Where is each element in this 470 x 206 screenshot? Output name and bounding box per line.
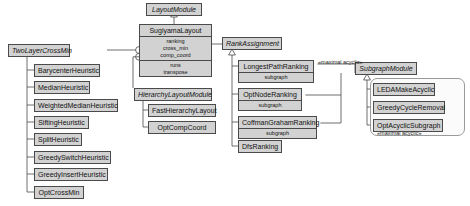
class-median-heuristic[interactable]: MedianHeuristic bbox=[34, 81, 90, 94]
class-name-greedy-insert-heuristic: GreedyInsertHeuristic bbox=[35, 169, 107, 180]
attributes-longest-path-ranking: subgraph bbox=[239, 72, 313, 82]
class-name-split-heuristic: SplitHeuristic bbox=[35, 134, 81, 145]
class-greedy-cycle-removal[interactable]: GreedyCycleRemoval bbox=[373, 101, 445, 114]
class-weighted-median-heuristic[interactable]: WeightedMedianHeuristic bbox=[34, 99, 118, 112]
class-name-greedy-cycle-removal: GreedyCycleRemoval bbox=[374, 102, 444, 113]
class-name-sugiyama-layout: SugiyamaLayout bbox=[140, 25, 211, 36]
class-opt-cross-min[interactable]: OptCrossMin bbox=[34, 186, 84, 199]
class-name-weighted-median-heuristic: WeightedMedianHeuristic bbox=[35, 100, 117, 111]
attributes-sugiyama-layout-1: ranking cross_min comp_coord bbox=[140, 36, 211, 60]
attributes-sugiyama-layout-2: runs transpose bbox=[140, 60, 211, 77]
attribute: comp_coord bbox=[143, 52, 208, 59]
attributes-coffman-graham-ranking: subgraph bbox=[239, 128, 316, 138]
class-name-dfs-ranking: DfsRanking bbox=[239, 141, 281, 152]
class-sugiyama-layout[interactable]: SugiyamaLayout ranking cross_min comp_co… bbox=[139, 24, 212, 77]
class-barycenter-heuristic[interactable]: BarycenterHeuristic bbox=[34, 64, 100, 77]
edge-coffman-to-subgraphmodule bbox=[320, 95, 341, 123]
class-sifting-heuristic[interactable]: SiftingHeuristic bbox=[34, 116, 89, 129]
attribute: subgraph bbox=[242, 130, 313, 137]
class-greedy-switch-heuristic[interactable]: GreedySwitchHeuristic bbox=[34, 151, 111, 164]
class-leda-make-acyclic[interactable]: LEDAMakeAcyclic bbox=[373, 83, 435, 96]
attribute: cross_min bbox=[143, 45, 208, 52]
class-longest-path-ranking[interactable]: LongestPathRanking subgraph bbox=[238, 60, 314, 83]
class-name-fast-hierarchy-layout: FastHierarchyLayout bbox=[149, 105, 215, 116]
attribute: runs bbox=[143, 62, 208, 69]
class-name-opt-node-ranking: OptNodeRanking bbox=[239, 89, 301, 100]
class-greedy-insert-heuristic[interactable]: GreedyInsertHeuristic bbox=[34, 168, 108, 181]
uml-class-diagram: LayoutModule SugiyamaLayout ranking cros… bbox=[0, 0, 470, 206]
class-dfs-ranking[interactable]: DfsRanking bbox=[238, 140, 282, 153]
class-name-sifting-heuristic: SiftingHeuristic bbox=[35, 117, 88, 128]
class-name-longest-path-ranking: LongestPathRanking bbox=[239, 61, 313, 72]
stereotype-maximal-acyclic-group: «maximal acyclic» bbox=[377, 131, 422, 137]
attribute: ranking bbox=[143, 38, 208, 45]
attributes-opt-node-ranking: subgraph bbox=[239, 100, 301, 110]
attribute: subgraph bbox=[242, 102, 298, 109]
class-split-heuristic[interactable]: SplitHeuristic bbox=[34, 133, 82, 146]
class-name-rank-assignment: RankAssignment bbox=[223, 38, 281, 49]
class-opt-comp-coord[interactable]: OptCompCoord bbox=[148, 121, 216, 134]
class-hierarchy-layout-module[interactable]: HierarchyLayoutModule bbox=[134, 88, 212, 101]
class-name-subgraph-module: SubgraphModule bbox=[356, 63, 416, 74]
attribute: transpose bbox=[143, 69, 208, 76]
class-name-median-heuristic: MedianHeuristic bbox=[35, 82, 89, 93]
attribute: subgraph bbox=[242, 74, 310, 81]
stereotype-maximal-acyclic-edge: «maximal acyclic» bbox=[318, 60, 363, 66]
class-name-opt-comp-coord: OptCompCoord bbox=[149, 122, 215, 133]
class-coffman-graham-ranking[interactable]: CoffmanGrahamRanking subgraph bbox=[238, 116, 317, 139]
class-layout-module[interactable]: LayoutModule bbox=[146, 3, 202, 16]
class-name-layout-module: LayoutModule bbox=[147, 4, 201, 15]
class-name-leda-make-acyclic: LEDAMakeAcyclic bbox=[374, 84, 434, 95]
class-opt-node-ranking[interactable]: OptNodeRanking subgraph bbox=[238, 88, 302, 111]
class-two-layer-cross-min[interactable]: TwoLayerCrossMin bbox=[8, 44, 70, 57]
class-name-coffman-graham-ranking: CoffmanGrahamRanking bbox=[239, 117, 316, 128]
class-name-greedy-switch-heuristic: GreedySwitchHeuristic bbox=[35, 152, 110, 163]
class-rank-assignment[interactable]: RankAssignment bbox=[222, 37, 282, 50]
class-subgraph-module[interactable]: SubgraphModule bbox=[355, 62, 417, 75]
class-name-two-layer-cross-min: TwoLayerCrossMin bbox=[9, 45, 69, 56]
class-name-hierarchy-layout-module: HierarchyLayoutModule bbox=[135, 89, 211, 100]
class-name-barycenter-heuristic: BarycenterHeuristic bbox=[35, 65, 99, 76]
class-name-opt-cross-min: OptCrossMin bbox=[35, 187, 83, 198]
class-fast-hierarchy-layout[interactable]: FastHierarchyLayout bbox=[148, 104, 216, 117]
